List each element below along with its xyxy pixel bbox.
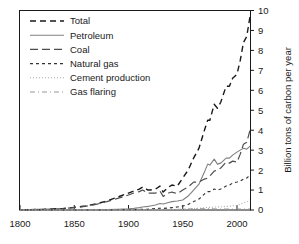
series-line-petroleum [20, 146, 250, 210]
y-tick-label: 8 [258, 45, 263, 56]
y-tick-label: 1 [258, 184, 263, 195]
x-axis-tick-labels: 18001850190019502000 [9, 218, 247, 229]
legend-label-coal: Coal [70, 44, 90, 55]
series-line-natural-gas [20, 175, 250, 210]
chart-canvas: 012345678910 18001850190019502000 TotalP… [0, 0, 299, 244]
y-tick-label: 10 [258, 5, 269, 16]
y-tick-label: 7 [258, 65, 263, 76]
series-line-total [20, 16, 250, 209]
data-series-group [20, 16, 250, 210]
y-tick-label: 3 [258, 145, 263, 156]
x-tick-label: 1850 [64, 218, 85, 229]
legend-label-total: Total [70, 15, 90, 26]
legend-label-natural-gas: Natural gas [70, 58, 119, 69]
series-line-coal [20, 130, 250, 210]
y-axis-tick-labels: 012345678910 [258, 5, 269, 216]
y-tick-label: 2 [258, 165, 263, 176]
y-tick-label: 0 [258, 204, 263, 215]
chart-legend: TotalPetroleumCoalNatural gasCement prod… [30, 15, 150, 97]
y-tick-label: 9 [258, 25, 263, 36]
x-tick-label: 2000 [226, 218, 247, 229]
y-axis-title: Billion tons of carbon per year [282, 47, 293, 173]
y-tick-label: 4 [258, 125, 263, 136]
y-tick-label: 6 [258, 85, 263, 96]
legend-label-cement-production: Cement production [70, 72, 150, 83]
x-tick-label: 1900 [118, 218, 139, 229]
carbon-emissions-chart: 012345678910 18001850190019502000 TotalP… [0, 0, 299, 244]
x-tick-label: 1800 [9, 218, 30, 229]
legend-label-gas-flaring: Gas flaring [70, 86, 116, 97]
legend-label-petroleum: Petroleum [70, 30, 113, 41]
x-tick-label: 1950 [172, 218, 193, 229]
plot-frame [20, 11, 251, 211]
y-tick-label: 5 [258, 105, 263, 116]
